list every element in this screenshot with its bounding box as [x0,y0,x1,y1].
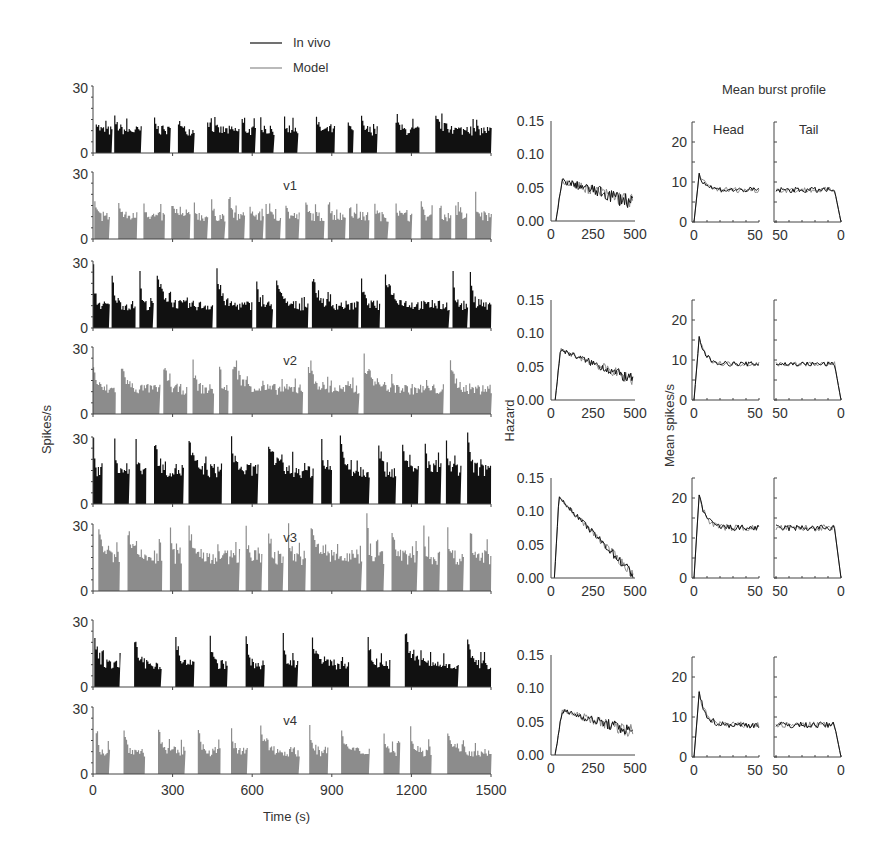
tail-x-tick-label: 50 [750,762,810,778]
raster-v4-invivo [91,620,491,690]
y-tick-label: 0 [80,406,88,422]
hazard-y-tick-label: 0.05 [517,537,544,553]
group-label-v1: v1 [260,178,320,193]
y-tick-label: 30 [72,431,88,447]
burst-profile-v3 [692,478,841,578]
legend-model-label: Model [293,60,328,75]
x-tick-label-time: 1500 [461,782,521,798]
tail-x-tick-label: 0 [811,583,871,599]
hazard-v2 [551,300,635,400]
tail-line-model [776,187,841,222]
head-x-tick-label: 0 [664,762,724,778]
group-label-v2: v2 [260,353,320,368]
y-tick-label: 0 [80,320,88,336]
y-tick-label: 0 [80,583,88,599]
x-tick-label-time: 600 [222,782,282,798]
raster-v3-model [91,513,491,594]
hazard-line-invivo [556,179,633,222]
mean-y-tick-label: 20 [671,134,687,150]
raster-bars [94,633,491,687]
head-line-invivo [694,495,759,578]
y-tick-label: 30 [72,341,88,357]
y-tick-label: 0 [80,496,88,512]
hazard-y-tick-label: 0.05 [517,180,544,196]
hazard-line-invivo [554,497,633,578]
legend-invivo-label: In vivo [293,35,331,50]
hazard-x-tick-label: 500 [605,405,665,421]
y-tick-label: 30 [72,80,88,96]
mean-y-tick-label: 10 [671,352,687,368]
mean-y-tick-label: 20 [671,490,687,506]
raster-v3-invivo [91,433,491,507]
tail-x-tick-label: 0 [811,405,871,421]
hazard-panels [551,121,635,755]
tail-x-tick-label: 50 [750,583,810,599]
head-x-tick-label: 0 [664,583,724,599]
tail-x-tick-label: 50 [750,227,810,243]
tail-x-tick-label: 0 [811,227,871,243]
mean-y-tick-label: 10 [671,530,687,546]
x-tick-label-time: 300 [143,782,203,798]
head-line-model [694,495,759,578]
x-tick-label-time: 1200 [381,782,441,798]
raster-bars [98,513,491,591]
y-tick-label: 30 [72,614,88,630]
mean-y-tick-label: 10 [671,174,687,190]
hazard-y-tick-label: 0.10 [517,325,544,341]
raster-v2-invivo [91,261,491,331]
raster-v1-invivo [91,86,492,156]
y-tick-label: 0 [80,766,88,782]
hazard-x-tick-label: 500 [605,583,665,599]
burst-profile-v4 [692,657,841,757]
tail-line-model [776,722,841,757]
hazard-x-tick-label: 500 [605,226,665,242]
hazard-y-tick-label: 0.10 [517,146,544,162]
raster-bars [96,114,492,153]
hazard-x-tick-label: 500 [605,760,665,776]
hazard-y-tick-label: 0.10 [517,680,544,696]
head-line-model [694,174,759,222]
hazard-v1 [551,121,635,221]
y-axis-label-spikes: Spikes/s [39,400,54,460]
mean-y-tick-label: 10 [671,709,687,725]
tail-title: Tail [799,122,819,137]
hazard-y-tick-label: 0.15 [517,113,544,129]
head-title: Head [713,122,744,137]
hazard-y-tick-label: 0.15 [517,470,544,486]
raster-bars [93,264,491,328]
hazard-y-tick-label: 0.15 [517,647,544,663]
y-axis-label-mean-spikes: Mean spikes/s [662,381,677,471]
y-tick-label: 0 [80,231,88,247]
hazard-v3 [551,478,635,578]
x-tick-label-time: 900 [302,782,362,798]
raster-bars [94,192,492,239]
x-tick-label-time: 0 [63,782,123,798]
head-line-model [694,336,759,400]
mean-y-tick-label: 20 [671,669,687,685]
hazard-y-tick-label: 0.10 [517,503,544,519]
group-label-v4: v4 [260,713,320,728]
figure [0,0,882,855]
legend [250,43,282,68]
raster-bars [96,725,492,774]
tail-line-model [776,362,841,400]
raster-bars [93,433,491,504]
hazard-v4 [551,655,635,755]
y-tick-label: 30 [72,255,88,271]
x-axis-label-time: Time (s) [263,809,310,824]
y-tick-label: 30 [72,701,88,717]
y-axis-label-hazard: Hazard [502,396,517,446]
head-x-tick-label: 0 [664,227,724,243]
y-tick-label: 0 [80,679,88,695]
burst-profile-v1 [692,122,841,222]
burst-profile-v2 [692,300,841,400]
hazard-y-tick-label: 0.15 [517,292,544,308]
burst-profile-panels [692,122,841,757]
y-tick-label: 30 [72,518,88,534]
hazard-y-tick-label: 0.05 [517,359,544,375]
tail-x-tick-label: 50 [750,405,810,421]
hazard-line-model [555,348,633,400]
head-line-invivo [694,337,759,400]
hazard-y-tick-label: 0.05 [517,714,544,730]
mean-y-tick-label: 20 [671,312,687,328]
